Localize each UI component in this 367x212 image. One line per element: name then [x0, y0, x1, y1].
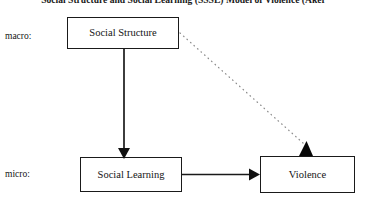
edge-structure-to-violence-line	[180, 33, 303, 143]
level-label-macro: macro:	[5, 31, 31, 42]
level-label-micro: micro:	[5, 169, 30, 180]
edge-structure-to-learning-arrow	[118, 49, 130, 159]
edge-learning-to-violence-arrowhead	[249, 169, 260, 181]
edge-learning-to-violence-arrow	[182, 169, 260, 181]
node-social-structure[interactable]: Social Structure	[67, 17, 179, 49]
node-violence-label: Violence	[289, 169, 326, 181]
node-violence[interactable]: Violence	[260, 156, 355, 193]
node-social-learning-label: Social Learning	[98, 169, 165, 181]
node-social-structure-label: Social Structure	[89, 27, 156, 39]
edge-structure-to-violence-arrowhead	[299, 141, 313, 156]
node-social-learning[interactable]: Social Learning	[80, 157, 182, 192]
edge-structure-to-violence-arrow	[180, 33, 313, 156]
figure-title: Social Structure and Social Learning (SS…	[0, 0, 367, 5]
sssl-model-diagram: Social Structure and Social Learning (SS…	[0, 0, 367, 212]
